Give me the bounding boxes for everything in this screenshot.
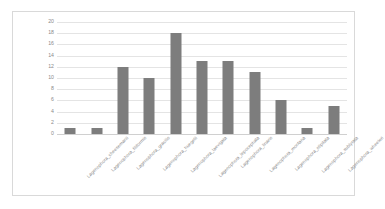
bar[interactable] [144,78,155,134]
bars-layer [57,22,347,134]
bar-slot [294,22,320,134]
bar-slot [83,22,109,134]
bar-slot [162,22,188,134]
chart-frame: 02468101214161820 Lagenophora_cheesemani… [12,11,355,196]
bar-slot [321,22,347,134]
x-axis-tick-labels: Lagenophora_cheesemaniiLagenophora_filif… [57,136,347,194]
y-tick-label: 20 [48,19,54,24]
bar[interactable] [328,106,339,134]
bar[interactable] [65,128,76,134]
bar[interactable] [249,72,260,134]
bar[interactable] [117,67,128,134]
bar-slot [136,22,162,134]
y-tick-label: 16 [48,42,54,47]
y-tick-label: 6 [51,98,54,103]
y-tick-label: 12 [48,64,54,69]
gridline [57,134,347,135]
bar[interactable] [276,100,287,134]
bar-slot [242,22,268,134]
y-tick-label: 4 [51,109,54,114]
bar[interactable] [170,33,181,134]
bar[interactable] [223,61,234,134]
y-tick-label: 0 [51,131,54,136]
y-tick-label: 14 [48,53,54,58]
bar-slot [110,22,136,134]
bar[interactable] [91,128,102,134]
bar-slot [268,22,294,134]
bar[interactable] [196,61,207,134]
y-tick-label: 18 [48,31,54,36]
bar-slot [57,22,83,134]
plot-area: 02468101214161820 [57,22,347,134]
bar-slot [189,22,215,134]
y-tick-label: 8 [51,87,54,92]
y-tick-label: 10 [48,75,54,80]
bar[interactable] [302,128,313,134]
bar-slot [215,22,241,134]
y-tick-label: 2 [51,120,54,125]
